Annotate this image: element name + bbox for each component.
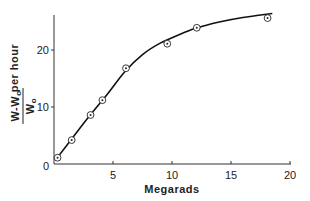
data-point [123,65,130,72]
data-point [99,97,106,104]
y-label-denominator: Wo [24,98,38,114]
y-label-denominator-text: W [24,103,36,114]
y-axis-label: W-Wo Wo per hour [8,43,38,124]
x-tick-label: 10 [166,169,178,181]
y-tick-label: 0 [43,160,49,172]
data-point-dot [90,114,92,116]
data-point-dot [71,139,73,141]
data-point [193,24,200,31]
fitted-curve [56,14,272,159]
chart: 510152001020 Megarads W-Wo Wo per hour [0,0,310,201]
y-label-suffix: per hour [8,43,20,92]
data-point [264,15,271,22]
data-point-dot [267,17,269,19]
x-tick-label: 20 [284,169,296,181]
ticks: 510152001020 [37,44,296,181]
x-axis-label: Megarads [144,183,199,195]
y-label-denominator-sub: o [29,98,38,103]
data-point [87,112,94,119]
data-point-dot [166,43,168,45]
data-point-dot [196,27,198,29]
data-markers [54,15,271,161]
data-point [54,154,61,161]
data-point-dot [101,99,103,101]
y-label-numerator: W-Wo [9,90,23,121]
data-point-dot [57,157,59,159]
y-tick-label: 20 [37,44,49,56]
x-tick-label: 15 [225,169,237,181]
x-tick-label: 5 [110,169,116,181]
data-point [164,40,171,47]
data-point-dot [125,67,127,69]
y-tick-label: 10 [37,101,49,113]
data-point [68,137,75,144]
y-label-numerator-text: W-W [9,96,21,122]
